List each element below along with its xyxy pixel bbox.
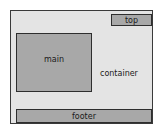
top-label: top xyxy=(125,16,138,25)
footer-box: footer xyxy=(16,109,152,123)
main-box: main xyxy=(16,33,92,92)
footer-label: footer xyxy=(72,112,96,121)
top-box: top xyxy=(111,14,152,26)
main-label: main xyxy=(44,55,64,64)
container-label: container xyxy=(100,69,138,78)
container-box: top main container footer xyxy=(10,10,153,124)
